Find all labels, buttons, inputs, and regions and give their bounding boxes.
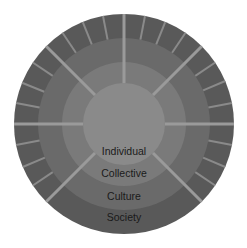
concentric-rings-diagram: Individual Collective Culture Society (0, 0, 247, 248)
label-culture: Culture (107, 190, 141, 202)
label-individual: Individual (102, 145, 146, 157)
label-society: Society (107, 211, 142, 223)
label-collective: Collective (101, 167, 147, 179)
